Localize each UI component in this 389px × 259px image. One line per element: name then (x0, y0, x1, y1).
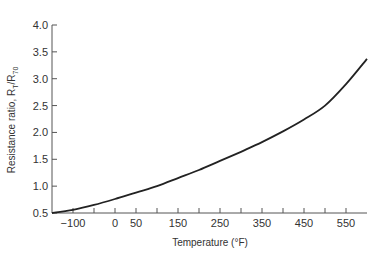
x-tick-label: 550 (337, 217, 355, 229)
y-tick-label: 3.5 (33, 46, 48, 58)
plot-series (52, 59, 367, 213)
y-axis: 0.51.01.52.02.53.03.54.0 (33, 19, 57, 219)
y-tick-label: 4.0 (33, 19, 48, 31)
resistance-temperature-chart: 0.51.01.52.02.53.03.54.0 −10005015025035… (0, 0, 389, 259)
resistance-curve (52, 59, 367, 213)
y-tick-label: 3.0 (33, 73, 48, 85)
y-tick-label: 0.5 (33, 207, 48, 219)
x-tick-label: 350 (253, 217, 271, 229)
x-tick-label: −100 (61, 217, 86, 229)
y-axis-title: Resistance ratio, RT/R70 (6, 67, 19, 174)
x-tick-label: 50 (130, 217, 142, 229)
y-tick-label: 2.0 (33, 126, 48, 138)
y-tick-label: 1.0 (33, 180, 48, 192)
y-tick-label: 1.5 (33, 153, 48, 165)
x-axis: −100050150250350450550 (52, 208, 367, 229)
x-tick-label: 0 (112, 217, 118, 229)
y-tick-label: 2.5 (33, 100, 48, 112)
x-tick-label: 450 (295, 217, 313, 229)
x-axis-title: Temperature (°F) (172, 237, 248, 248)
x-tick-label: 150 (169, 217, 187, 229)
x-tick-label: 250 (211, 217, 229, 229)
